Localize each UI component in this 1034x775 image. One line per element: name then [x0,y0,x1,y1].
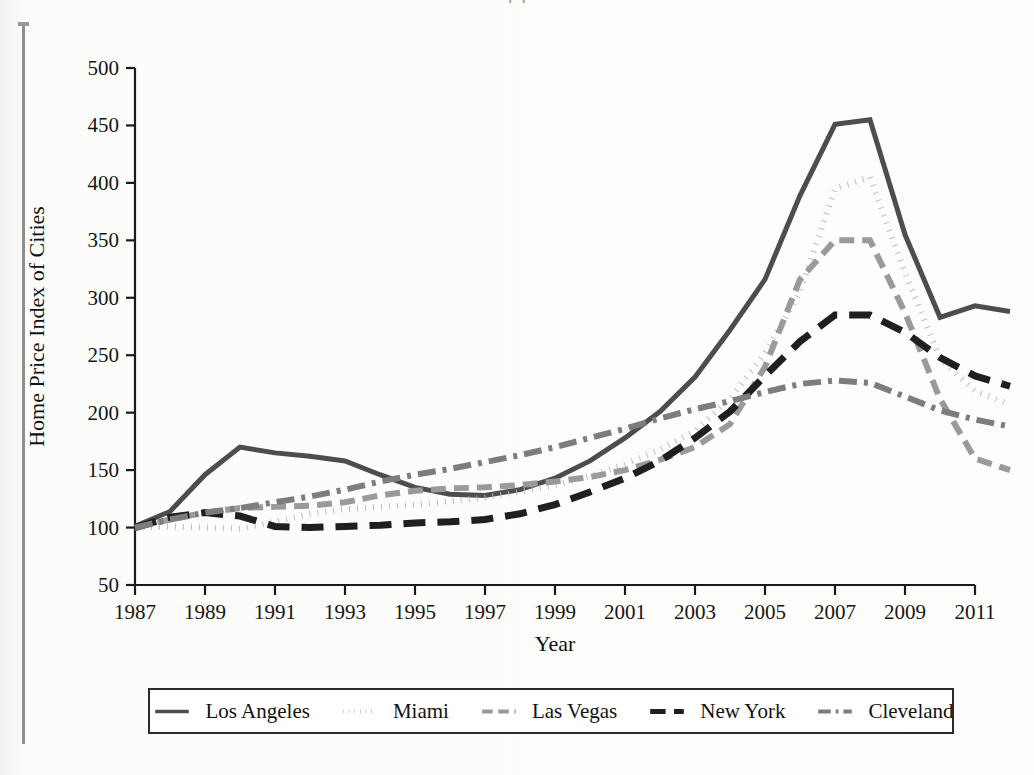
legend-swatch-los-angeles [148,708,196,715]
x-tick-label: 1989 [184,600,226,624]
x-tick-label: 2003 [674,600,716,624]
legend-item-las-vegas[interactable]: Las Vegas [475,701,617,722]
chart-legend: Los AngelesMiamiLas VegasNew YorkClevela… [148,688,954,734]
series-line-miami [135,177,1010,529]
x-tick-label: 1993 [324,600,366,624]
series-line-los-angeles [135,120,1010,527]
x-tick-label: 1999 [534,600,576,624]
x-tick-label: 1995 [394,600,436,624]
legend-item-los-angeles[interactable]: Los Angeles [148,701,309,722]
y-tick-label: 450 [88,113,120,137]
y-tick-label: 250 [88,343,120,367]
x-tick-label: 2011 [954,600,995,624]
x-axis-title: Year [535,631,576,656]
scanned-page: ( ) 50100150200250300350400450500 198719… [0,0,1034,775]
x-tick-label: 1997 [464,600,506,624]
y-tick-label: 400 [88,171,120,195]
y-tick-label: 300 [88,286,120,310]
legend-swatch-miami [336,708,384,715]
legend-label: Miami [393,701,449,722]
legend-swatch-new-york [643,708,691,715]
y-axis-ticks: 50100150200250300350400450500 [88,56,136,597]
legend-label: Cleveland [868,701,953,722]
legend-item-miami[interactable]: Miami [336,701,449,722]
legend-swatch-las-vegas [475,708,523,715]
y-tick-label: 350 [88,228,120,252]
y-tick-label: 100 [88,516,120,540]
y-tick-label: 150 [88,458,120,482]
legend-label: Las Vegas [532,701,617,722]
x-tick-label: 1991 [254,600,296,624]
chart-plot-area: 50100150200250300350400450500 1987198919… [0,0,1034,775]
y-tick-label: 500 [88,56,120,80]
x-axis-ticks: 1987198919911993199519971999200120032005… [114,585,996,624]
legend-label: New York [700,701,785,722]
legend-swatch-cleveland [811,708,859,715]
x-tick-label: 1987 [114,600,156,624]
x-tick-label: 2001 [604,600,646,624]
series-line-new-york [135,315,1010,528]
y-tick-label: 50 [98,573,119,597]
data-series-group [135,120,1010,529]
legend-item-new-york[interactable]: New York [643,701,785,722]
x-tick-label: 2005 [744,600,786,624]
y-axis-title: Home Price Index of Cities [24,206,49,447]
line-chart: 50100150200250300350400450500 1987198919… [0,0,1034,775]
legend-label: Los Angeles [205,701,309,722]
y-tick-label: 200 [88,401,120,425]
legend-item-cleveland[interactable]: Cleveland [811,701,953,722]
series-line-cleveland [135,380,1010,527]
x-tick-label: 2009 [884,600,926,624]
x-tick-label: 2007 [814,600,856,624]
